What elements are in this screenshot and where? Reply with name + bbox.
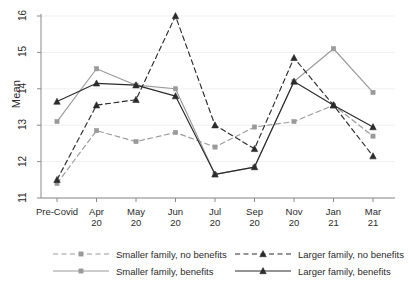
y-tick-label: 11 [17,187,28,209]
y-tick-label: 15 [17,41,28,63]
data-point-marker [79,269,83,273]
y-tick-label: 16 [17,5,28,27]
series-2 [54,13,376,183]
series-line [57,49,373,175]
legend-swatch [234,248,292,260]
data-point-marker [54,98,60,104]
data-point-marker [94,129,98,133]
series-line [57,16,373,180]
legend-label: Larger family, no benefits [298,249,404,260]
data-point-marker [371,90,375,94]
legend-label: Smaller family, benefits [116,266,214,277]
data-point-marker [251,145,257,151]
data-point-marker [55,119,59,123]
data-point-marker [133,96,139,102]
data-point-marker [79,252,83,256]
y-tick-label: 12 [17,150,28,172]
data-point-marker [173,130,177,134]
legend-swatch [52,265,110,277]
data-point-marker [370,124,376,130]
data-point-marker [134,139,138,143]
plot-area [0,0,409,289]
legend-item: Larger family, benefits [234,265,391,277]
y-tick-label: 13 [17,114,28,136]
y-tick-label: 14 [17,77,28,99]
legend-label: Smaller family, no benefits [116,249,227,260]
legend-swatch [52,248,110,260]
data-point-marker [213,145,217,149]
series-1 [55,47,375,177]
legend-item: Smaller family, no benefits [52,248,227,260]
data-point-marker [292,119,296,123]
data-point-marker [331,47,335,51]
data-point-marker [291,54,297,60]
data-point-marker [94,67,98,71]
x-tick-label: Mar21 [345,206,401,228]
legend-label: Larger family, benefits [298,266,391,277]
data-point-marker [252,125,256,129]
chart-figure: Mean 111213141516 Pre-CovidApr20May20Jun… [0,0,409,289]
data-point-marker [371,134,375,138]
chart-legend: Smaller family, no benefitsSmaller famil… [52,248,404,284]
legend-item: Smaller family, benefits [52,265,214,277]
legend-swatch [234,265,292,277]
data-point-marker [370,153,376,159]
data-point-marker [173,87,177,91]
legend-item: Larger family, no benefits [234,248,404,260]
